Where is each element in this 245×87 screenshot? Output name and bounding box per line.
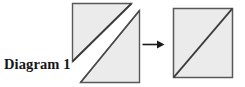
arrow-head xyxy=(157,41,165,49)
diagram-figure: Diagram 1 xyxy=(0,0,245,87)
right-figure-reassembled-square xyxy=(168,2,238,84)
right-figure-svg xyxy=(168,2,238,84)
left-figure-cut-square xyxy=(66,0,144,87)
transformation-arrow xyxy=(142,38,166,52)
arrow-right-icon xyxy=(142,38,166,52)
diagram-label: Diagram 1 xyxy=(4,55,68,73)
left-figure-svg xyxy=(66,0,144,87)
